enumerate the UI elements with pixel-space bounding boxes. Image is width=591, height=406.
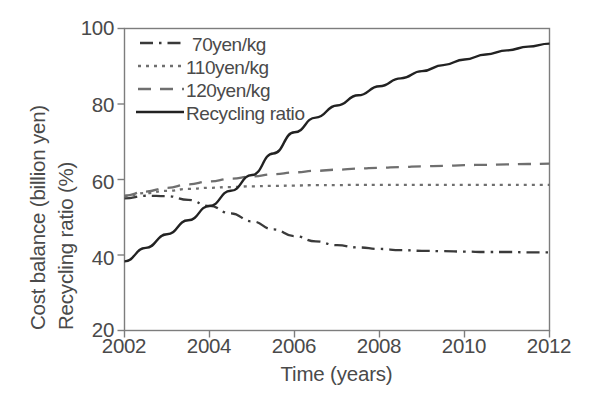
series-line-70yen-kg (125, 196, 550, 253)
series-line-120yen-kg (125, 164, 550, 196)
legend-line-samples (136, 43, 186, 112)
series-line-110yen-kg (125, 185, 550, 196)
series-lines (125, 44, 550, 262)
axis-ticks (118, 29, 550, 338)
series-line-recycling-ratio (125, 44, 550, 262)
chart-figure: Cost balance (billion yen) Recycling rat… (0, 0, 591, 406)
plot-frame (125, 29, 550, 331)
plot-area (0, 0, 591, 406)
